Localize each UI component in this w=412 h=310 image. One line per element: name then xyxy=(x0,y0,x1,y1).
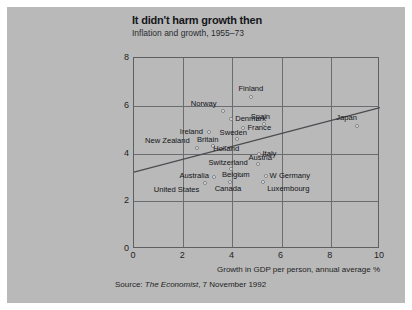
data-point-label: Belgium xyxy=(222,171,249,179)
y-tick-label: 8 xyxy=(119,52,129,62)
data-point-label: Sweden xyxy=(220,129,247,137)
data-point-label: United States xyxy=(154,186,200,194)
data-point-label: Australia xyxy=(179,172,209,180)
plot-area: JapanFinlandNorwayDenmarkSpainFranceIrel… xyxy=(133,57,379,248)
source-suffix: , 7 November 1992 xyxy=(198,280,266,289)
data-point-marker xyxy=(195,146,199,150)
y-tick-label: 0 xyxy=(119,243,129,253)
data-point-label: W Germany xyxy=(270,172,311,180)
source-publication: The Economist xyxy=(145,280,198,289)
data-point-label: Holland xyxy=(213,145,239,153)
data-point-label: Japan xyxy=(336,114,357,122)
data-point-label: Canada xyxy=(215,185,242,193)
data-point-marker xyxy=(207,130,211,134)
data-point-label: France xyxy=(247,124,271,132)
data-point-marker xyxy=(221,109,225,113)
data-point-marker xyxy=(264,174,268,178)
x-axis-label: Growth in GDP per person, annual average… xyxy=(217,265,380,274)
data-point-label: Luxembourg xyxy=(267,185,309,193)
data-point-marker xyxy=(355,124,359,128)
data-point-label: Finland xyxy=(238,85,263,93)
data-point-marker xyxy=(229,117,233,121)
data-point-label: Austria xyxy=(248,154,272,162)
data-point-label: Spain xyxy=(251,113,270,121)
chart-figure: It didn't harm growth then Inflation and… xyxy=(7,7,405,303)
x-tick-label: 0 xyxy=(130,250,135,260)
chart-subtitle: Inflation and growth, 1955–73 xyxy=(132,28,244,38)
data-point-label: New Zealand xyxy=(145,137,190,145)
x-tick-label: 6 xyxy=(278,250,283,260)
y-tick-label: 4 xyxy=(119,148,129,158)
x-tick-label: 2 xyxy=(180,250,185,260)
x-tick-label: 8 xyxy=(327,250,332,260)
source-note: Source: The Economist, 7 November 1992 xyxy=(115,280,266,289)
y-tick-label: 2 xyxy=(119,195,129,205)
source-prefix: Source: xyxy=(115,280,145,289)
chart-title: It didn't harm growth then xyxy=(132,14,262,26)
y-tick-label: 6 xyxy=(119,100,129,110)
x-tick-label: 10 xyxy=(374,250,384,260)
data-point-label: Switzerland xyxy=(209,159,248,167)
x-tick-label: 4 xyxy=(229,250,234,260)
data-point-label: Norway xyxy=(191,100,217,108)
